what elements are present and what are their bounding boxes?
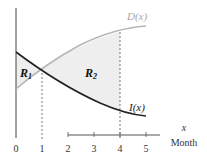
i-curve-label: I(x) (128, 101, 145, 114)
x-variable-label: x (181, 122, 187, 133)
tick-label-2: 2 (66, 143, 71, 154)
d-curve-label: D(x) (126, 10, 147, 23)
tick-label-4: 4 (118, 143, 123, 154)
tick-label-1: 1 (40, 143, 45, 154)
tick-label-0: 0 (14, 143, 19, 154)
x-axis-label: Month (171, 137, 198, 148)
tick-label-3: 3 (92, 143, 97, 154)
revenue-cost-diagram: 0 1 2 3 4 5 x Month D(x) I(x) R1 R2 (0, 0, 207, 161)
tick-label-5: 5 (144, 143, 149, 154)
